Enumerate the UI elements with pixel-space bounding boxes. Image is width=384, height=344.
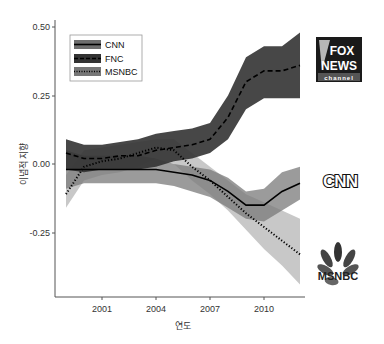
legend-label: FNC [105, 54, 124, 64]
ideology-chart: 0.50 0.25 0.00 -0.25 2001 2004 2007 2010… [0, 0, 384, 344]
x-ticks: 2001 2004 2007 2010 [92, 297, 274, 314]
fox-news-logo: FOX NEWS channel [316, 37, 362, 82]
svg-text:channel: channel [324, 75, 354, 81]
legend-item-fnc: FNC [74, 54, 124, 64]
y-tick-label: -0.25 [29, 228, 50, 238]
legend-label: CNN [105, 40, 125, 50]
msnbc-logo: MSNBC [316, 242, 361, 286]
x-axis-title: 연도 [175, 321, 191, 331]
y-tick-label: 0.25 [32, 91, 50, 101]
legend-item-msnbc: MSNBC [74, 67, 138, 77]
svg-text:NEWS: NEWS [321, 59, 357, 73]
cnn-logo: CNN [323, 172, 358, 191]
x-tick-label: 2004 [146, 304, 166, 314]
y-tick-label: 0.00 [32, 159, 50, 169]
y-axis-title: 이념적 지향 [18, 143, 29, 186]
x-tick-label: 2001 [92, 304, 112, 314]
svg-text:CNN: CNN [323, 172, 358, 191]
svg-text:FOX: FOX [330, 44, 355, 58]
legend: CNN FNC MSNBC [70, 35, 142, 81]
y-ticks: 0.50 0.25 0.00 -0.25 [29, 22, 55, 238]
svg-text:MSNBC: MSNBC [318, 270, 358, 282]
y-tick-label: 0.50 [32, 22, 50, 32]
x-tick-label: 2007 [200, 304, 220, 314]
legend-item-cnn: CNN [74, 40, 125, 50]
x-tick-label: 2010 [254, 304, 274, 314]
legend-label: MSNBC [105, 67, 138, 77]
